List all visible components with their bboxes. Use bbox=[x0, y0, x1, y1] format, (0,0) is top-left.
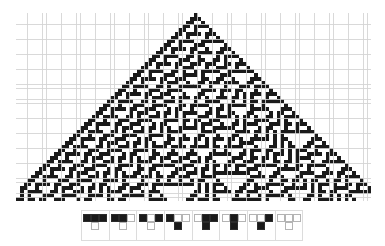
neighborhood-cell-0 bbox=[83, 214, 91, 222]
icon-neighborhood bbox=[139, 214, 163, 222]
spacetime-diagram-canvas bbox=[16, 13, 371, 201]
icon-neighborhood bbox=[111, 214, 135, 222]
neighborhood-cell-2 bbox=[210, 214, 218, 222]
neighborhood-cell-0 bbox=[249, 214, 257, 222]
rule-icon-strip bbox=[81, 210, 303, 242]
icon-output-row bbox=[194, 222, 218, 230]
neighborhood-cell-2 bbox=[265, 214, 273, 222]
icon-output-row bbox=[222, 222, 246, 230]
output-cell bbox=[119, 222, 127, 230]
icon-output-row bbox=[83, 222, 107, 230]
rule-case-6[interactable] bbox=[109, 210, 137, 241]
neighborhood-cell-2 bbox=[99, 214, 107, 222]
rule-case-7[interactable] bbox=[81, 210, 109, 241]
cellular-automaton-figure bbox=[0, 0, 385, 246]
rule-case-0[interactable] bbox=[275, 210, 303, 241]
neighborhood-cell-2 bbox=[238, 214, 246, 222]
neighborhood-cell-2 bbox=[127, 214, 135, 222]
output-cell bbox=[91, 222, 99, 230]
icon-neighborhood bbox=[222, 214, 246, 222]
neighborhood-cell-1 bbox=[174, 214, 182, 222]
rule-case-5[interactable] bbox=[136, 210, 164, 241]
neighborhood-cell-1 bbox=[257, 214, 265, 222]
output-cell bbox=[285, 222, 293, 230]
neighborhood-cell-2 bbox=[293, 214, 301, 222]
neighborhood-cell-0 bbox=[111, 214, 119, 222]
output-cell bbox=[202, 222, 210, 230]
output-cell bbox=[230, 222, 238, 230]
evolution-grid-container bbox=[16, 13, 371, 201]
icon-neighborhood bbox=[277, 214, 301, 222]
output-cell bbox=[257, 222, 265, 230]
rule-case-3[interactable] bbox=[192, 210, 220, 241]
rule-case-4[interactable] bbox=[164, 210, 192, 241]
neighborhood-cell-0 bbox=[277, 214, 285, 222]
icon-output-row bbox=[277, 222, 301, 230]
neighborhood-cell-0 bbox=[139, 214, 147, 222]
rule-case-1[interactable] bbox=[247, 210, 275, 241]
neighborhood-cell-0 bbox=[194, 214, 202, 222]
icon-output-row bbox=[139, 222, 163, 230]
neighborhood-cell-1 bbox=[285, 214, 293, 222]
icon-output-row bbox=[249, 222, 273, 230]
icon-output-row bbox=[166, 222, 190, 230]
icon-neighborhood bbox=[249, 214, 273, 222]
output-cell bbox=[147, 222, 155, 230]
neighborhood-cell-1 bbox=[91, 214, 99, 222]
icon-neighborhood bbox=[166, 214, 190, 222]
icon-output-row bbox=[111, 222, 135, 230]
neighborhood-cell-0 bbox=[166, 214, 174, 222]
neighborhood-cell-2 bbox=[155, 214, 163, 222]
icon-neighborhood bbox=[194, 214, 218, 222]
neighborhood-cell-1 bbox=[119, 214, 127, 222]
output-cell bbox=[174, 222, 182, 230]
neighborhood-cell-2 bbox=[182, 214, 190, 222]
neighborhood-cell-0 bbox=[222, 214, 230, 222]
neighborhood-cell-1 bbox=[202, 214, 210, 222]
rule-case-2[interactable] bbox=[219, 210, 247, 241]
icon-neighborhood bbox=[83, 214, 107, 222]
neighborhood-cell-1 bbox=[147, 214, 155, 222]
neighborhood-cell-1 bbox=[230, 214, 238, 222]
